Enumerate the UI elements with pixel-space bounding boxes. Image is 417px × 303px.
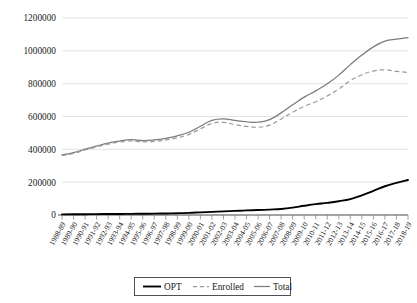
chart-legend: OPTEnrolledTotal	[135, 278, 293, 296]
series-group	[62, 38, 408, 215]
series-line-total	[62, 38, 408, 155]
ytick-label: 0	[51, 210, 56, 220]
chart-container: 020000040000060000080000010000001200000 …	[0, 0, 417, 303]
ytick-label: 600000	[28, 112, 56, 122]
ytick-labels-group: 020000040000060000080000010000001200000	[23, 13, 56, 220]
xtick-marks-group	[62, 215, 408, 220]
line-chart: 020000040000060000080000010000001200000 …	[0, 0, 417, 303]
series-line-enrolled	[62, 70, 408, 156]
legend-label-total: Total	[273, 282, 292, 292]
legend-label-enrolled: Enrolled	[212, 282, 244, 292]
xtick-labels-group: 1988-891989-901990-911991-921992-931993-…	[47, 220, 414, 247]
series-line-opt	[62, 180, 408, 214]
ytick-label: 800000	[28, 79, 56, 89]
ytick-label: 200000	[28, 178, 56, 188]
ytick-label: 1200000	[23, 13, 56, 23]
ytick-label: 400000	[28, 145, 56, 155]
legend-label-opt: OPT	[164, 282, 182, 292]
gridlines-group	[62, 18, 408, 182]
ytick-label: 1000000	[23, 46, 56, 56]
